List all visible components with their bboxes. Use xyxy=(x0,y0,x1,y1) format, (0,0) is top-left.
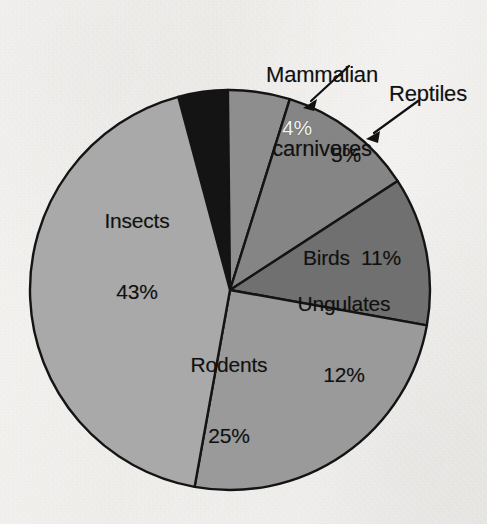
label-insects-name: Insects xyxy=(104,209,169,233)
value-ungulates: 12% xyxy=(298,363,391,387)
value-reptiles: 5% xyxy=(331,143,361,167)
label-ungulates-name: Ungulates xyxy=(298,292,391,316)
label-rodents-name: Rodents xyxy=(191,353,268,377)
pie-chart-figure: Mammalian carnivores Reptiles 4% 5% Bird… xyxy=(0,0,487,524)
label-ungulates: Ungulates 12% xyxy=(298,245,391,433)
label-mammalian-carnivores: Mammalian carnivores xyxy=(266,14,378,211)
label-rodents: Rodents 25% xyxy=(191,306,268,494)
value-rodents: 25% xyxy=(191,424,268,448)
label-insects: Insects 43% xyxy=(104,162,169,350)
label-mammalian-carnivores-line2: carnivores xyxy=(266,137,378,162)
value-insects: 43% xyxy=(104,280,169,304)
value-mammalian-carnivores: 4% xyxy=(282,116,312,140)
label-reptiles: Reptiles xyxy=(389,82,467,107)
label-mammalian-carnivores-line1: Mammalian xyxy=(266,63,378,88)
